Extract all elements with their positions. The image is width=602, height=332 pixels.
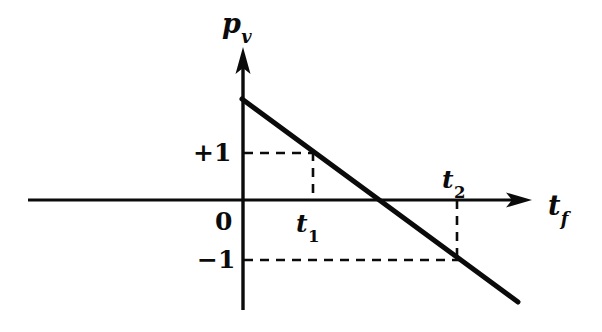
y-axis-label-base: p [222,8,241,39]
origin-label: 0 [215,209,232,234]
x-tick-label-t1-base: t [296,209,308,238]
y-axis-label: pv [222,10,251,42]
x-axis-label-base: t [548,190,560,221]
x-tick-label-t2-base: t [442,165,454,194]
figure-canvas: pv tf +1 −1 0 t1 t2 [0,0,602,332]
x-tick-label-t1: t1 [296,211,319,242]
y-axis-label-subscript: v [241,26,251,47]
y-tick-label-minus-one: −1 [197,247,235,272]
y-tick-label-plus-one: +1 [193,140,231,165]
x-tick-label-t2-subscript: 2 [454,183,465,202]
x-tick-label-t1-subscript: 1 [308,227,319,246]
x-axis-label: tf [548,192,568,224]
plot-svg [0,0,602,332]
x-axis-label-subscript: f [561,208,569,229]
x-tick-label-t2: t2 [442,167,465,198]
